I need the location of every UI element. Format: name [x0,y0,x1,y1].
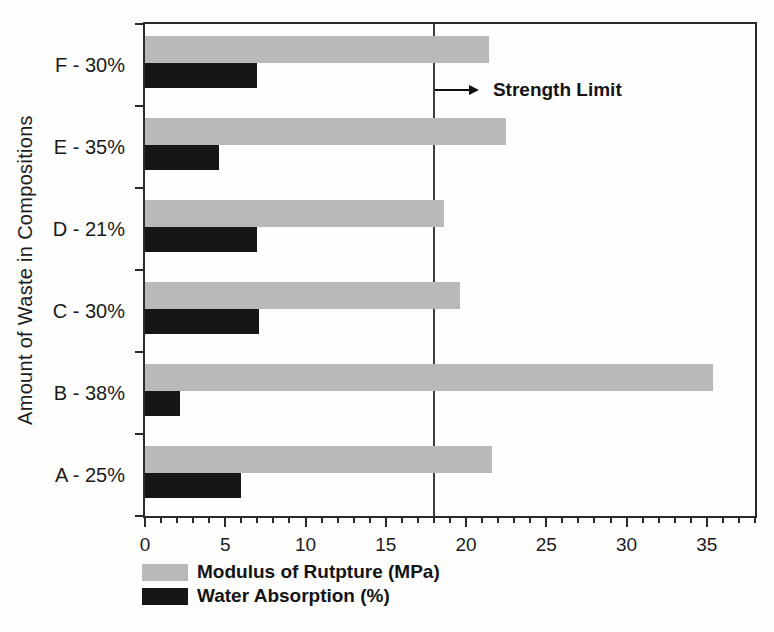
x-minor-tick [738,518,740,523]
y-axis-title: Amount of Waste in Compositions [14,115,37,425]
bar-water-absorption [145,473,241,498]
y-tick [135,351,143,353]
x-major-tick [626,518,628,527]
y-tick [135,269,143,271]
legend-swatch-water-absorption [142,588,188,605]
x-minor-tick [337,518,339,523]
x-major-tick [706,518,708,527]
x-minor-tick [256,518,258,523]
y-tick [135,105,143,107]
legend: Modulus of Rutpture (MPa) Water Absorpti… [142,560,440,608]
x-minor-tick [674,518,676,523]
x-minor-tick [401,518,403,523]
y-tick [135,23,143,25]
y-tick [135,433,143,435]
category-label: A - 25% [0,464,135,487]
annotation-label: Strength Limit [493,79,622,101]
x-tick-label: 20 [444,534,488,556]
bar-water-absorption [145,309,259,334]
x-major-tick [545,518,547,527]
x-minor-tick [593,518,595,523]
chart-figure: Amount of Waste in Compositions Strength… [0,0,774,632]
x-tick-label: 35 [685,534,729,556]
arrow-line [435,89,469,91]
x-tick-label: 5 [203,534,247,556]
category-label: F - 30% [0,54,135,77]
x-minor-tick [481,518,483,523]
bar-modulus [145,446,492,473]
x-minor-tick [722,518,724,523]
x-minor-tick [497,518,499,523]
x-major-tick [224,518,226,527]
bar-modulus [145,282,460,309]
legend-item-modulus: Modulus of Rutpture (MPa) [142,560,440,584]
plot-area: Strength Limit [143,22,757,518]
category-label: B - 38% [0,382,135,405]
x-minor-tick [449,518,451,523]
bar-modulus [145,364,713,391]
x-tick-label: 25 [524,534,568,556]
x-tick-label: 10 [284,534,328,556]
y-tick [135,515,143,517]
x-minor-tick [690,518,692,523]
x-minor-tick [208,518,210,523]
x-minor-tick [642,518,644,523]
x-minor-tick [529,518,531,523]
x-major-tick [385,518,387,527]
x-minor-tick [353,518,355,523]
bar-water-absorption [145,63,257,88]
x-minor-tick [658,518,660,523]
bar-water-absorption [145,145,219,170]
x-minor-tick [610,518,612,523]
legend-item-water-absorption: Water Absorption (%) [142,584,440,608]
x-minor-tick [561,518,563,523]
x-minor-tick [577,518,579,523]
x-major-tick [465,518,467,527]
bar-water-absorption [145,391,180,416]
x-minor-tick [192,518,194,523]
x-minor-tick [272,518,274,523]
bar-modulus [145,118,506,145]
strength-limit-annotation: Strength Limit [435,80,622,100]
category-label: C - 30% [0,300,135,323]
category-label: E - 35% [0,136,135,159]
x-minor-tick [176,518,178,523]
x-major-tick [144,518,146,527]
x-minor-tick [369,518,371,523]
x-tick-label: 30 [605,534,649,556]
x-minor-tick [160,518,162,523]
x-minor-tick [754,518,756,523]
x-minor-tick [513,518,515,523]
legend-label-water-absorption: Water Absorption (%) [197,585,390,607]
category-label: D - 21% [0,218,135,241]
bar-water-absorption [145,227,257,252]
bar-modulus [145,36,489,63]
legend-label-modulus: Modulus of Rutpture (MPa) [197,561,440,583]
arrow-right-icon [469,85,479,95]
x-tick-label: 15 [364,534,408,556]
y-tick [135,187,143,189]
x-minor-tick [240,518,242,523]
x-major-tick [305,518,307,527]
bar-modulus [145,200,444,227]
x-minor-tick [417,518,419,523]
x-minor-tick [321,518,323,523]
x-tick-label: 0 [123,534,167,556]
x-minor-tick [288,518,290,523]
legend-swatch-modulus [142,564,188,581]
x-minor-tick [433,518,435,523]
